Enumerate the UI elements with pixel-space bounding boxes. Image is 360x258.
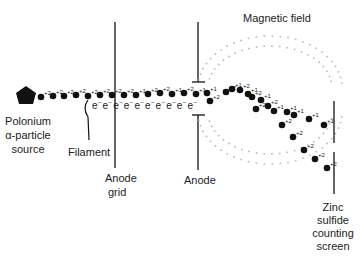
electron-charge: − xyxy=(140,99,144,105)
electron-charge: − xyxy=(172,99,176,105)
charge-label: +2 xyxy=(243,83,251,89)
lower-path-particle: +2 xyxy=(290,130,304,140)
magnetic-field-label: Magnetic field xyxy=(243,12,311,24)
electron: e− xyxy=(187,99,197,111)
field-dot xyxy=(210,141,212,143)
field-dot xyxy=(294,49,296,51)
field-dot xyxy=(226,153,228,155)
field-dot xyxy=(223,59,225,61)
field-dot xyxy=(233,42,235,44)
field-dot xyxy=(241,50,243,52)
beam-particle: +2 xyxy=(121,88,135,98)
charge-label: +1 xyxy=(297,108,305,114)
field-dot xyxy=(295,39,297,41)
field-dot xyxy=(326,143,328,145)
field-dot xyxy=(241,149,243,151)
field-dot xyxy=(233,156,235,158)
field-dot xyxy=(338,127,340,129)
anode-grid-label-2: grid xyxy=(108,186,126,198)
charge-label: +1 xyxy=(312,112,320,118)
field-dot xyxy=(255,162,257,164)
field-dot xyxy=(302,157,304,159)
field-dot xyxy=(263,153,265,155)
screen-label-3: counting xyxy=(312,227,354,239)
beam-particle: +2 xyxy=(145,87,159,97)
field-dot xyxy=(330,81,332,83)
electron-charge: − xyxy=(162,99,166,105)
field-dot xyxy=(240,159,242,161)
electron: e− xyxy=(92,99,102,111)
charge-label: +2 xyxy=(296,130,304,136)
field-dot xyxy=(263,45,265,47)
beam-particle: +2 xyxy=(85,89,99,99)
field-dot xyxy=(331,60,333,62)
field-dot xyxy=(271,35,273,37)
field-dot xyxy=(322,132,324,134)
field-dot xyxy=(321,147,323,149)
filament-label: Filament xyxy=(68,146,110,158)
charge-label: +2 xyxy=(307,143,315,149)
field-dot xyxy=(248,161,250,163)
field-dot xyxy=(248,151,250,153)
charge-label: +2 xyxy=(259,102,267,108)
field-dot xyxy=(198,79,200,81)
field-dot xyxy=(214,68,216,70)
screen-label-4: screen xyxy=(316,240,349,252)
field-dot xyxy=(211,125,213,127)
field-dot xyxy=(248,48,250,50)
field-dot xyxy=(248,37,250,39)
field-dot xyxy=(271,153,273,155)
field-dot xyxy=(279,46,281,48)
field-dot xyxy=(198,119,200,121)
field-dot xyxy=(318,137,320,139)
field-dot xyxy=(329,75,331,77)
source-label-2: α-particle xyxy=(5,129,50,141)
field-dot xyxy=(215,53,217,55)
electron-charge: − xyxy=(98,99,102,105)
field-dot xyxy=(234,146,236,148)
field-dot xyxy=(209,78,211,80)
field-dot xyxy=(271,163,273,165)
lower-path-particle: +2 xyxy=(301,143,315,153)
field-dot xyxy=(335,133,337,135)
electron: e− xyxy=(103,99,113,111)
field-dot xyxy=(326,70,328,72)
charge-label: +1 xyxy=(210,86,218,92)
field-dot xyxy=(315,151,317,153)
field-dot xyxy=(321,51,323,53)
field-dot xyxy=(287,161,289,163)
source-label-3: source xyxy=(11,143,44,155)
field-dot xyxy=(340,122,342,124)
beam-particle: +2 xyxy=(73,88,87,98)
beam-particle: +2 xyxy=(97,88,111,98)
beam-particle: +2 xyxy=(157,86,171,96)
field-dot xyxy=(286,47,288,49)
field-dot xyxy=(210,58,212,60)
field-dot xyxy=(206,63,208,65)
field-dot xyxy=(226,45,228,47)
field-dot xyxy=(223,139,225,141)
field-dot xyxy=(331,138,333,140)
screen-label-1: Zinc xyxy=(323,201,344,213)
field-dot xyxy=(206,136,208,138)
electron: e− xyxy=(166,99,176,111)
field-dot xyxy=(256,46,258,48)
charge-label: +2 xyxy=(213,94,221,100)
field-dot xyxy=(279,36,281,38)
lower-path-particle: +2 xyxy=(279,118,293,128)
electron: e− xyxy=(134,99,144,111)
lower-path-particle: +2 xyxy=(253,102,267,112)
charge-label: +1 xyxy=(277,104,285,110)
field-dot xyxy=(228,143,230,145)
electron: e− xyxy=(113,99,123,111)
polonium-source-icon xyxy=(16,86,36,104)
beam-particle: +1 xyxy=(133,88,147,98)
field-dot xyxy=(341,116,343,118)
field-dot xyxy=(220,149,222,151)
lower-path-particle: +2 xyxy=(324,161,338,171)
charge-label: +2 xyxy=(187,86,195,92)
field-dot xyxy=(294,150,296,152)
field-dot xyxy=(341,82,343,84)
electron-charge: − xyxy=(130,99,134,105)
field-dot xyxy=(255,36,257,38)
